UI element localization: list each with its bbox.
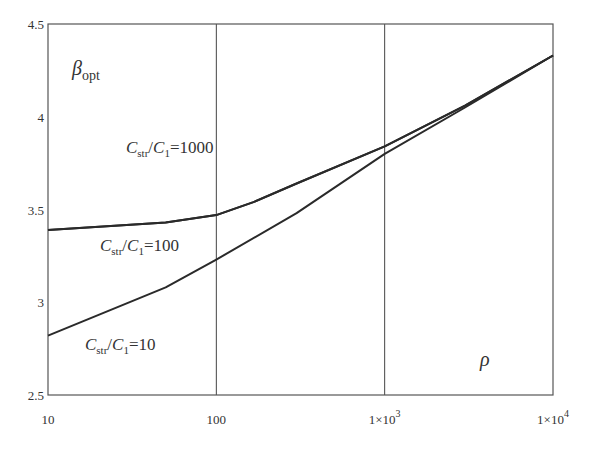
y-axis-label: βopt (71, 57, 100, 83)
x-tick-label: 1×104 (537, 408, 569, 427)
curve-series-0 (48, 56, 553, 230)
series-label: Cstr/C1=10 (85, 335, 156, 356)
x-axis-ticks: 101001×1031×104 (42, 408, 569, 427)
x-axis-label: ρ (479, 348, 490, 371)
y-tick-label: 4.5 (28, 17, 44, 32)
curves (48, 56, 553, 336)
y-tick-label: 3 (38, 295, 45, 310)
y-axis-ticks: 2.533.544.5 (28, 17, 45, 403)
x-tick-label: 10 (42, 412, 55, 427)
y-tick-label: 2.5 (28, 388, 44, 403)
curve-series-1 (48, 56, 553, 230)
y-tick-label: 3.5 (28, 203, 44, 218)
series-label: Cstr/C1=100 (100, 236, 179, 257)
y-tick-label: 4 (38, 110, 45, 125)
series-label: Cstr/C1=1000 (126, 138, 214, 159)
y-axis-label-sub: opt (82, 68, 100, 83)
series-annotations: Cstr/C1=1000Cstr/C1=100Cstr/C1=10 (85, 138, 214, 356)
chart: 2.533.544.5 101001×1031×104 βopt ρ Cstr/… (0, 0, 596, 456)
x-tick-label: 100 (207, 412, 227, 427)
x-tick-label: 1×103 (369, 408, 401, 427)
y-axis-label-main: β (71, 57, 82, 80)
